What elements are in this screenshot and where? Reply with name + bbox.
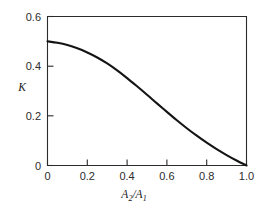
chart-figure: 0 0.2 0.4 0.6 0.8 1.0 0 0.2 0.4 0.6 K A2…	[0, 0, 264, 211]
x-tick-label-3: 0.6	[159, 170, 174, 182]
y-tick-label-2: 0.4	[26, 60, 41, 72]
y-tick-label-1: 0.2	[26, 110, 41, 122]
x-tick-label-4: 0.8	[199, 170, 214, 182]
x-tick-label-1: 0.2	[80, 170, 95, 182]
y-axis-title-text: K	[17, 81, 27, 93]
x-axis-title-sub-2: 1	[143, 194, 147, 203]
y-axis-title: K	[17, 81, 27, 93]
y-tick-label-3: 0.6	[26, 11, 41, 23]
x-tick-label-2: 0.4	[119, 170, 134, 182]
x-tick-label-0: 0	[44, 170, 50, 182]
y-tick-label-0: 0	[35, 160, 41, 172]
x-tick-label-5: 1.0	[239, 170, 254, 182]
